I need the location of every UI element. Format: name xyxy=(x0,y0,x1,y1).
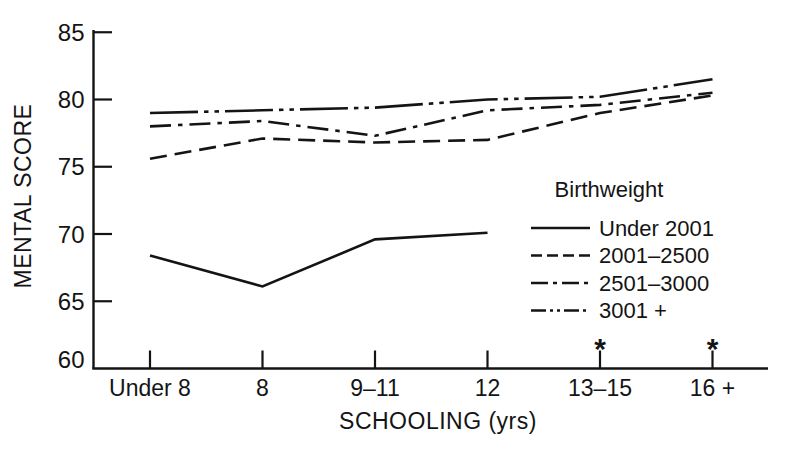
x-tick-label: 8 xyxy=(256,375,269,401)
x-axis-title: SCHOOLING (yrs) xyxy=(339,408,537,434)
legend-label: 3001 + xyxy=(599,298,667,323)
legend-item: 2001–2500 xyxy=(531,243,709,268)
y-tick-label: 85 xyxy=(58,19,85,46)
x-tick-label: Under 8 xyxy=(109,375,191,401)
mental-score-chart: 606570758085Under 889–111213–1516 + Unde… xyxy=(0,0,787,450)
y-tick-label: 65 xyxy=(58,288,85,315)
series-line-solid xyxy=(150,233,488,287)
y-tick-label: 75 xyxy=(58,153,85,180)
legend-items-group: Under 20012001–25002501–30003001 + xyxy=(531,216,714,324)
x-tick-label: 13–15 xyxy=(568,375,632,401)
legend-label: 2001–2500 xyxy=(599,243,709,268)
asterisk-annotation: * xyxy=(707,332,719,365)
legend-item: 2501–3000 xyxy=(531,271,709,296)
series-line-dash-dot xyxy=(150,93,713,136)
series-line-dashed xyxy=(150,96,713,159)
legend-label: 2501–3000 xyxy=(599,271,709,296)
y-tick-label: 60 xyxy=(58,346,85,373)
figure: 606570758085Under 889–111213–1516 + Unde… xyxy=(0,0,787,450)
axes-group: 606570758085Under 889–111213–1516 + xyxy=(58,19,768,401)
y-tick-label: 80 xyxy=(58,86,85,113)
y-tick-label: 70 xyxy=(58,221,85,248)
x-tick-label: 9–11 xyxy=(350,375,399,401)
y-axis-title: MENTAL SCORE xyxy=(10,104,36,289)
annotations-group: ** xyxy=(594,332,719,365)
x-tick-label: 16 + xyxy=(690,375,735,401)
legend-item: 3001 + xyxy=(531,298,667,323)
legend-item: Under 2001 xyxy=(531,216,714,241)
legend-title: Birthweight xyxy=(555,177,664,202)
asterisk-annotation: * xyxy=(594,332,606,365)
legend-label: Under 2001 xyxy=(599,216,714,241)
x-tick-label: 12 xyxy=(475,375,501,401)
